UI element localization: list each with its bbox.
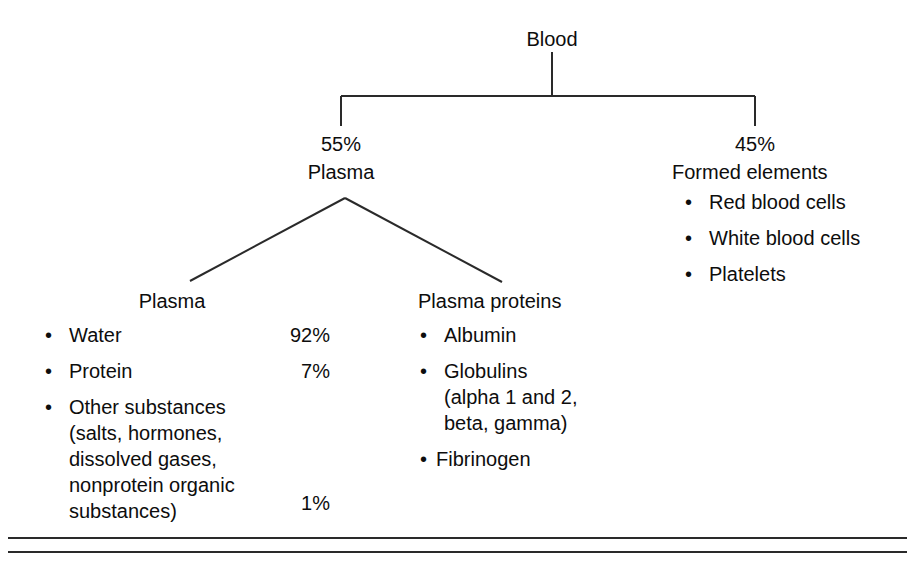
list-item: • Red blood cells: [685, 189, 860, 215]
node-root-blood: Blood: [526, 26, 577, 52]
plasma-composition-list: • Water • Protein • Other substances (sa…: [45, 322, 235, 524]
list-item-continuation: dissolved gases,: [69, 446, 235, 472]
bullet-icon: •: [45, 322, 59, 348]
list-item-label: Other substances: [69, 394, 235, 420]
branch-formed-elements-label: Formed elements: [672, 159, 828, 185]
list-item: • Platelets: [685, 261, 860, 287]
connector-fork-right: [345, 198, 502, 282]
branch-plasma-label: Plasma: [308, 159, 375, 185]
bottom-rule-upper: [8, 537, 907, 539]
list-item-label: Red blood cells: [709, 189, 860, 215]
list-item-continuation: (salts, hormones,: [69, 420, 235, 446]
list-item: • Albumin: [420, 322, 577, 348]
bullet-icon: •: [420, 446, 434, 472]
bullet-icon: •: [685, 261, 699, 287]
bullet-icon: •: [420, 358, 434, 384]
list-item-label: Fibrinogen: [436, 446, 577, 472]
plasma-protein-percent: 7%: [270, 358, 330, 384]
list-item-label: Globulins: [444, 358, 577, 384]
formed-elements-list: • Red blood cells • White blood cells • …: [685, 189, 860, 287]
list-item: • Water: [45, 322, 235, 348]
list-item-continuation: nonprotein organic: [69, 472, 235, 498]
list-item-continuation: (alpha 1 and 2,: [444, 384, 577, 410]
plasma-water-percent: 92%: [270, 322, 330, 348]
list-item: • Fibrinogen: [420, 446, 577, 472]
plasma-proteins-list: • Albumin • Globulins (alpha 1 and 2, be…: [420, 322, 577, 472]
list-item: • Protein: [45, 358, 235, 384]
bullet-icon: •: [420, 322, 434, 348]
branch-formed-elements-percent: 45%: [735, 131, 775, 157]
list-item: • White blood cells: [685, 225, 860, 251]
diagram-canvas: Blood 55% Plasma 45% Formed elements • R…: [0, 0, 915, 567]
list-item: • Other substances (salts, hormones, dis…: [45, 394, 235, 524]
list-item-continuation: beta, gamma): [444, 410, 577, 436]
bullet-icon: •: [45, 358, 59, 384]
list-item-label: Albumin: [444, 322, 577, 348]
bottom-rule-lower: [8, 551, 907, 553]
list-item-label: Water: [69, 322, 235, 348]
list-item-label: Platelets: [709, 261, 860, 287]
list-item-continuation: substances): [69, 498, 235, 524]
list-item-label: Protein: [69, 358, 235, 384]
list-item-label: White blood cells: [709, 225, 860, 251]
subgroup-plasma-heading: Plasma: [139, 288, 206, 314]
branch-plasma-percent: 55%: [321, 131, 361, 157]
subgroup-plasma-proteins-heading: Plasma proteins: [418, 288, 561, 314]
bullet-icon: •: [45, 394, 59, 420]
connector-fork-left: [190, 198, 345, 281]
plasma-other-percent: 1%: [270, 490, 330, 516]
bullet-icon: •: [685, 189, 699, 215]
bullet-icon: •: [685, 225, 699, 251]
list-item: • Globulins (alpha 1 and 2, beta, gamma): [420, 358, 577, 436]
